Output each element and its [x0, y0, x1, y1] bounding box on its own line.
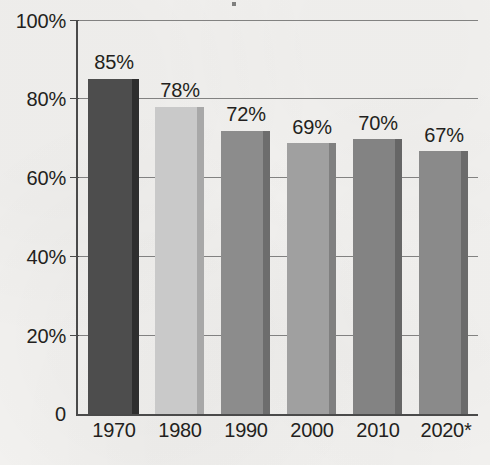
bar-chart: 100% 80% 60% 40% 20% 0 85% 78% 72%	[0, 0, 490, 465]
bar-shadow-2000	[329, 143, 336, 414]
bar-2010	[353, 139, 402, 414]
x-axis-line	[76, 414, 478, 416]
xtick-label-2010: 2010	[347, 420, 409, 440]
bar-1970	[88, 79, 139, 414]
plot-area: 100% 80% 60% 40% 20% 0 85% 78% 72%	[0, 0, 490, 465]
bar-value-1970: 85%	[84, 52, 144, 72]
bar-value-1990: 72%	[216, 104, 276, 124]
ytick-label-80: 80%	[0, 89, 66, 109]
bar-value-1980: 78%	[150, 80, 210, 100]
y-axis-line	[76, 20, 78, 415]
ytick-label-0: 0	[0, 404, 66, 424]
xtick-label-1980: 1980	[149, 420, 211, 440]
bar-shadow-1970	[132, 79, 139, 414]
bar-shadow-2020	[461, 151, 468, 414]
bar-value-2010: 70%	[348, 113, 408, 133]
ytick-label-40: 40%	[0, 247, 66, 267]
bar-1990	[221, 131, 270, 414]
xtick-label-1990: 1990	[215, 420, 277, 440]
bar-shadow-2010	[395, 139, 402, 414]
bar-shadow-1990	[263, 131, 270, 414]
xtick-label-2020: 2020*	[411, 420, 481, 440]
bar-value-2000: 69%	[282, 117, 342, 137]
ytick-label-100: 100%	[0, 11, 66, 31]
bar-2000	[287, 143, 336, 414]
xtick-label-1970: 1970	[83, 420, 145, 440]
ytick-label-60: 60%	[0, 168, 66, 188]
bar-2020	[419, 151, 468, 414]
ytick-label-20: 20%	[0, 326, 66, 346]
bar-shadow-1980	[197, 107, 204, 414]
gridline-100	[76, 20, 478, 21]
xtick-label-2000: 2000	[281, 420, 343, 440]
bar-1980	[155, 107, 204, 414]
bar-value-2020: 67%	[414, 125, 474, 145]
